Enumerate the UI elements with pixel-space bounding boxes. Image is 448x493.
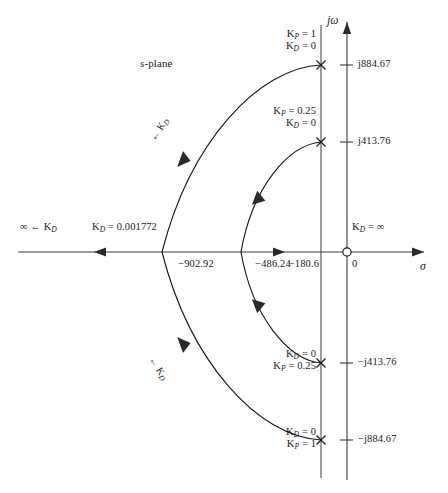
jomega-axis-label: jω	[327, 14, 339, 28]
ann2-l1-sub: P	[281, 109, 286, 118]
imag-tick-label-j884-67: j884.67	[358, 58, 391, 70]
annotation-kd0-kp1-lower: KD = 0 KP = 1	[286, 426, 316, 451]
ann4-l1-main: K	[286, 426, 294, 437]
annotation-line-2: KD = 0	[286, 40, 316, 52]
ann3-l1-sub: D	[294, 352, 300, 361]
imag-tick-label-neg-j413-76: −j413.76	[358, 356, 397, 368]
real-tick-label-neg-180-6: −180.6	[289, 258, 319, 270]
annotation-line-1: KP = 0.25	[273, 105, 316, 117]
ann4-l2-sub: P	[294, 442, 299, 451]
ann1-l1-rest: = 1	[299, 28, 316, 39]
ann1-l2-rest: = 0	[299, 40, 316, 51]
kd-infinity-sub: D	[51, 225, 57, 234]
ann2-l2-sub: D	[294, 121, 300, 130]
ann4-l1-rest: = 0	[299, 426, 316, 437]
real-axis	[18, 248, 424, 257]
ann4-l1-sub: D	[294, 430, 300, 439]
ann4-l2-main: K	[287, 438, 295, 449]
annotation-kp025-kd0-upper: KP = 0.25 KD = 0	[273, 105, 316, 130]
kd-breakaway-sub: D	[100, 225, 106, 234]
kd-infinity-main: ∞ ← K	[20, 221, 51, 232]
s-plane-label: s-plane	[140, 57, 172, 70]
imag-tick-label-neg-j884-67: −j884.67	[358, 433, 397, 445]
origin-label: 0	[352, 258, 357, 270]
sigma-axis-label: σ	[420, 260, 426, 274]
annotation-kp1-kd0-upper: KP = 1 KD = 0	[286, 28, 316, 53]
annotation-line-1: KP = 1	[286, 28, 316, 40]
imag-tick-label-j413-76: j413.76	[358, 135, 391, 147]
kd-inf-sub: D	[360, 225, 366, 234]
kd-to-infinity-label: ∞ ← KD	[20, 221, 57, 233]
ann3-l2-rest: = 0.25	[286, 360, 316, 371]
kd-breakaway-main: K	[92, 221, 100, 232]
annotation-line-2: KP = 1	[286, 438, 316, 450]
annotation-line-2: KD = 0	[273, 117, 316, 129]
zero-marker	[343, 248, 351, 256]
ann2-l1-rest: = 0.25	[286, 105, 316, 116]
plot-canvas	[0, 0, 448, 493]
ann3-l1-rest: = 0	[299, 348, 316, 359]
kd-equals-infinity-label: KD = ∞	[352, 221, 384, 233]
ann1-l1-sub: P	[294, 32, 299, 41]
s-plane-rest: -plane	[144, 57, 172, 69]
ann4-l2-rest: = 1	[299, 438, 316, 449]
annotation-kd0-kp025-lower: KD = 0 KP = 0.25	[273, 348, 316, 373]
annotation-line-2: KP = 0.25	[273, 360, 316, 372]
ann2-l2-rest: = 0	[299, 117, 316, 128]
kd-breakaway-label: KD = 0.001772	[92, 221, 157, 233]
annotation-line-1: KD = 0	[273, 348, 316, 360]
ann1-l1-main: K	[287, 28, 295, 39]
ann3-l2-main: K	[273, 360, 281, 371]
root-locus-figure: s-plane σ jω j884.67 j413.76 −j413.76 −j…	[0, 0, 448, 493]
ann2-l1-main: K	[273, 105, 281, 116]
real-tick-label-neg-902-92: −902.92	[178, 258, 214, 270]
kd-inf-rest: = ∞	[365, 221, 384, 232]
ann3-l2-sub: P	[281, 364, 286, 373]
ann1-l2-sub: D	[294, 44, 300, 53]
real-tick-label-neg-486-24: −486.24	[255, 258, 291, 270]
kd-inf-main: K	[352, 221, 360, 232]
annotation-line-1: KD = 0	[286, 426, 316, 438]
ann1-l2-main: K	[286, 40, 294, 51]
kd-breakaway-rest: = 0.001772	[105, 221, 157, 232]
